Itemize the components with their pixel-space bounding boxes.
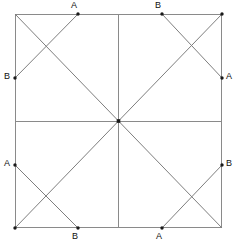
diagonal-center-to-bottom-left [15,121,119,228]
label-left-A: A [4,159,10,168]
dot-top-B [160,12,163,15]
dot-center [117,119,121,123]
label-right-B: B [226,159,232,168]
label-right-A: A [226,72,232,81]
label-bottom-B: B [72,232,78,241]
diagonal-center-to-bottom-right [119,121,223,228]
dot-corner-bottom-left [13,226,16,229]
dot-bottom-B [76,226,79,229]
label-top-B: B [155,1,161,10]
dot-right-B [220,163,223,166]
dot-left-B [13,76,16,79]
dot-left-A [13,163,16,166]
diagonal-center-to-top-left [15,14,119,121]
label-left-B: B [4,72,10,81]
dot-right-A [220,76,223,79]
dot-top-A [76,12,79,15]
dot-corner-top-right [220,12,223,15]
square-pinwheel-figure [0,0,237,244]
geometry-diagram-canvas: A B B A A B B A [0,0,237,244]
label-top-A: A [71,1,77,10]
dot-bottom-A [160,226,163,229]
label-bottom-A: A [156,232,162,241]
diagonal-center-to-top-right [119,14,223,121]
